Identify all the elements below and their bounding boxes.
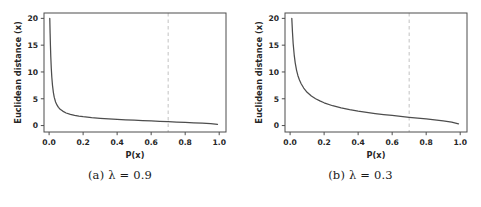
y-tick-label: 0: [33, 121, 38, 130]
x-tick-label: 0.8: [419, 138, 432, 147]
x-tick-label: 0.8: [178, 138, 191, 147]
y-tick-label: 5: [33, 95, 38, 104]
plot-area-a: 0.00.20.40.60.81.005101520P(x)Euclidean …: [0, 0, 240, 168]
x-axis-label: P(x): [367, 150, 386, 160]
caption-a: (a) λ = 0.9: [0, 168, 240, 182]
x-tick-label: 1.0: [453, 138, 466, 147]
y-tick-label: 5: [274, 95, 279, 104]
x-tick-label: 0.6: [144, 138, 157, 147]
x-tick-label: 0.0: [283, 138, 296, 147]
x-tick-label: 1.0: [212, 138, 225, 147]
chart-a: 0.00.20.40.60.81.005101520P(x)Euclidean …: [0, 0, 240, 168]
plot-area-b: 0.00.20.40.60.81.005101520P(x)Euclidean …: [241, 0, 481, 168]
y-tick-label: 15: [27, 41, 38, 50]
x-tick-label: 0.4: [110, 138, 123, 147]
y-axis-label: Euclidean distance (x): [254, 21, 264, 124]
x-tick-label: 0.2: [317, 138, 330, 147]
panel-b: 0.00.20.40.60.81.005101520P(x)Euclidean …: [240, 0, 481, 207]
y-tick-label: 0: [274, 121, 279, 130]
x-tick-label: 0.0: [42, 138, 55, 147]
panel-a: 0.00.20.40.60.81.005101520P(x)Euclidean …: [0, 0, 240, 207]
y-tick-label: 10: [268, 68, 279, 77]
caption-b: (b) λ = 0.3: [240, 168, 481, 182]
data-curve: [50, 18, 218, 124]
y-tick-label: 10: [27, 68, 38, 77]
x-tick-label: 0.4: [351, 138, 364, 147]
x-tick-label: 0.6: [385, 138, 398, 147]
chart-b: 0.00.20.40.60.81.005101520P(x)Euclidean …: [241, 0, 481, 168]
y-tick-label: 20: [268, 14, 279, 23]
x-tick-label: 0.2: [76, 138, 89, 147]
y-tick-label: 15: [268, 41, 279, 50]
y-tick-label: 20: [27, 14, 38, 23]
x-axis-label: P(x): [126, 150, 145, 160]
figure-container: 0.00.20.40.60.81.005101520P(x)Euclidean …: [0, 0, 481, 207]
data-curve: [292, 18, 459, 123]
caption-b-text: (b) λ = 0.3: [328, 168, 393, 182]
y-axis-label: Euclidean distance (x): [13, 21, 23, 124]
caption-a-text: (a) λ = 0.9: [88, 168, 152, 182]
